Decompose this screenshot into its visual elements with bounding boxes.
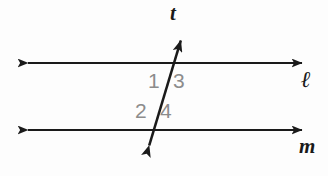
angle-label-3: 3 [173, 70, 185, 91]
geometry-figure: t ℓ m 1 3 2 4 [0, 0, 328, 176]
angle-label-1: 1 [148, 70, 160, 91]
line-label-t: t [170, 3, 176, 24]
line-label-ell: ℓ [301, 68, 311, 91]
line-label-m: m [299, 136, 315, 157]
geometry-canvas [0, 0, 328, 176]
angle-label-4: 4 [160, 100, 172, 121]
angle-label-2: 2 [135, 100, 147, 121]
